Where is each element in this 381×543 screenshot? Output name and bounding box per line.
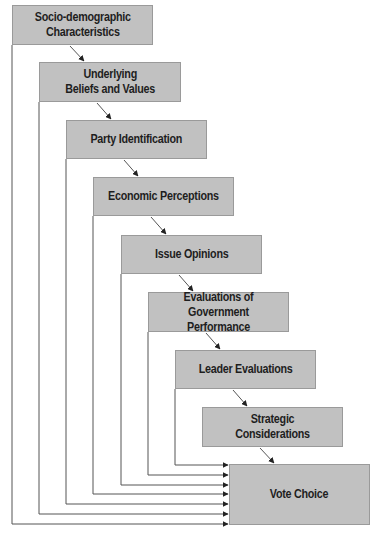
node-label: Party Identification xyxy=(91,132,183,147)
node-leader-evaluations: Leader Evaluations xyxy=(175,350,316,389)
arrow-socio-to-vote xyxy=(12,45,228,524)
arrow-strategic-to-vote xyxy=(260,448,274,463)
node-label: Issue Opinions xyxy=(155,247,228,262)
node-economic-perceptions: Economic Perceptions xyxy=(93,177,234,216)
node-label: Underlying Beliefs and Values xyxy=(65,67,155,97)
node-issue-opinions: Issue Opinions xyxy=(121,235,262,274)
node-evaluations-of-government-performance: Evaluations of Government Performance xyxy=(148,292,289,332)
arrow-leaders-to-strategic xyxy=(233,390,247,406)
funnel-of-causality-diagram: Socio-demographic Characteristics Underl… xyxy=(0,0,381,543)
arrow-party-to-economic xyxy=(124,160,138,176)
node-party-identification: Party Identification xyxy=(66,120,207,159)
node-socio-demographic-characteristics: Socio-demographic Characteristics xyxy=(12,5,153,45)
node-label: Strategic Considerations xyxy=(213,412,333,442)
node-vote-choice: Vote Choice xyxy=(229,464,370,525)
node-label: Vote Choice xyxy=(270,487,328,502)
node-label: Socio-demographic Characteristics xyxy=(35,10,131,40)
arrow-beliefs-to-party xyxy=(97,103,111,119)
node-underlying-beliefs-and-values: Underlying Beliefs and Values xyxy=(39,62,181,102)
arrow-government-to-leaders xyxy=(206,333,220,349)
node-label: Leader Evaluations xyxy=(199,362,293,377)
node-label: Evaluations of Government Performance xyxy=(159,290,279,335)
node-strategic-considerations: Strategic Considerations xyxy=(202,407,343,447)
arrow-socio-to-beliefs xyxy=(70,46,84,61)
arrow-economic-to-issues xyxy=(151,217,166,234)
node-label: Economic Perceptions xyxy=(108,189,219,204)
